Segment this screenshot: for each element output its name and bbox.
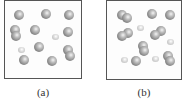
large-particle-icon: [131, 56, 141, 66]
large-particle-icon: [117, 31, 127, 41]
panel-b-caption: (b): [124, 86, 164, 98]
large-particle-icon: [47, 56, 57, 66]
large-particle-icon: [14, 10, 24, 20]
small-particle-icon: [52, 34, 59, 40]
small-particle-icon: [137, 25, 144, 31]
small-particle-icon: [152, 56, 159, 62]
large-particle-icon: [165, 56, 175, 66]
large-particle-icon: [165, 10, 175, 20]
large-particle-icon: [147, 9, 157, 19]
small-particle-icon: [167, 39, 174, 45]
small-particle-icon: [18, 47, 25, 53]
large-particle-icon: [63, 27, 73, 37]
large-particle-icon: [150, 30, 160, 40]
large-particle-icon: [19, 55, 29, 65]
large-particle-icon: [30, 25, 40, 35]
large-particle-icon: [41, 9, 51, 19]
large-particle-icon: [34, 42, 44, 52]
large-particle-icon: [64, 10, 74, 20]
panel-a-caption: (a): [23, 86, 63, 98]
large-particle-icon: [65, 51, 75, 61]
small-particle-icon: [121, 57, 128, 63]
large-particle-icon: [139, 46, 149, 56]
large-particle-icon: [11, 31, 21, 41]
large-particle-icon: [122, 13, 132, 23]
